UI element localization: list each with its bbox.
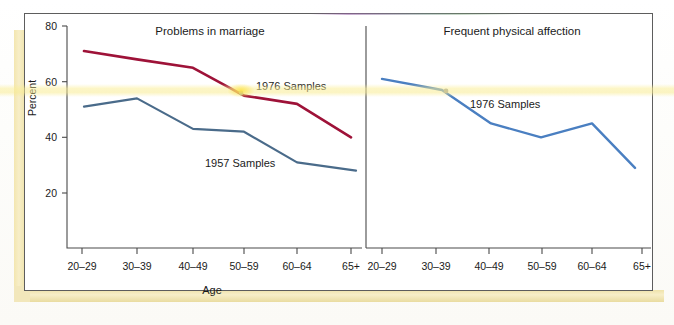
left-panel-axes — [62, 26, 362, 254]
x-axis-title: Age — [202, 284, 222, 296]
right-xtick-label-2: 40–49 — [474, 260, 503, 272]
annotation-1976-samples-left: 1976 Samples — [256, 80, 327, 92]
left-xtick-label-2: 40–49 — [178, 260, 207, 272]
ytick-label-60: 60 — [45, 76, 57, 88]
y-axis-title: Percent — [26, 80, 38, 116]
right-xtick-label-5: 65+ — [633, 260, 651, 272]
right-xtick-label-3: 50–59 — [527, 260, 556, 272]
right-xtick-label-1: 30–39 — [421, 260, 450, 272]
left-series-marker-dot — [239, 91, 244, 96]
ytick-label-20: 20 — [45, 187, 57, 199]
annotation-1957-samples-left: 1957 Samples — [205, 157, 276, 169]
figure-page: 80 60 40 20 Percent 20–29 30–39 40–49 50… — [0, 0, 674, 325]
chart-canvas: 80 60 40 20 Percent 20–29 30–39 40–49 50… — [0, 0, 674, 325]
right-panel-axes — [366, 248, 651, 254]
annotation-1976-samples-right: 1976 Samples — [470, 98, 541, 110]
right-series-marker-dot — [444, 89, 449, 94]
right-panel-title: Frequent physical affection — [443, 25, 580, 37]
series-1976-problems-in-marriage — [84, 51, 351, 137]
left-axis-lines — [67, 26, 362, 248]
left-xtick-label-5: 65+ — [342, 260, 360, 272]
right-xtick-label-0: 20–29 — [367, 260, 396, 272]
left-xtick-label-3: 50–59 — [229, 260, 258, 272]
left-xtick-label-0: 20–29 — [67, 260, 96, 272]
left-xtick-label-4: 60–64 — [282, 260, 311, 272]
ytick-label-80: 80 — [45, 20, 57, 32]
right-xtick-label-4: 60–64 — [577, 260, 606, 272]
left-xtick-label-1: 30–39 — [122, 260, 151, 272]
ytick-label-40: 40 — [45, 131, 57, 143]
left-panel-title: Problems in marriage — [155, 25, 264, 37]
series-1976-frequent-physical-affection — [382, 79, 635, 168]
